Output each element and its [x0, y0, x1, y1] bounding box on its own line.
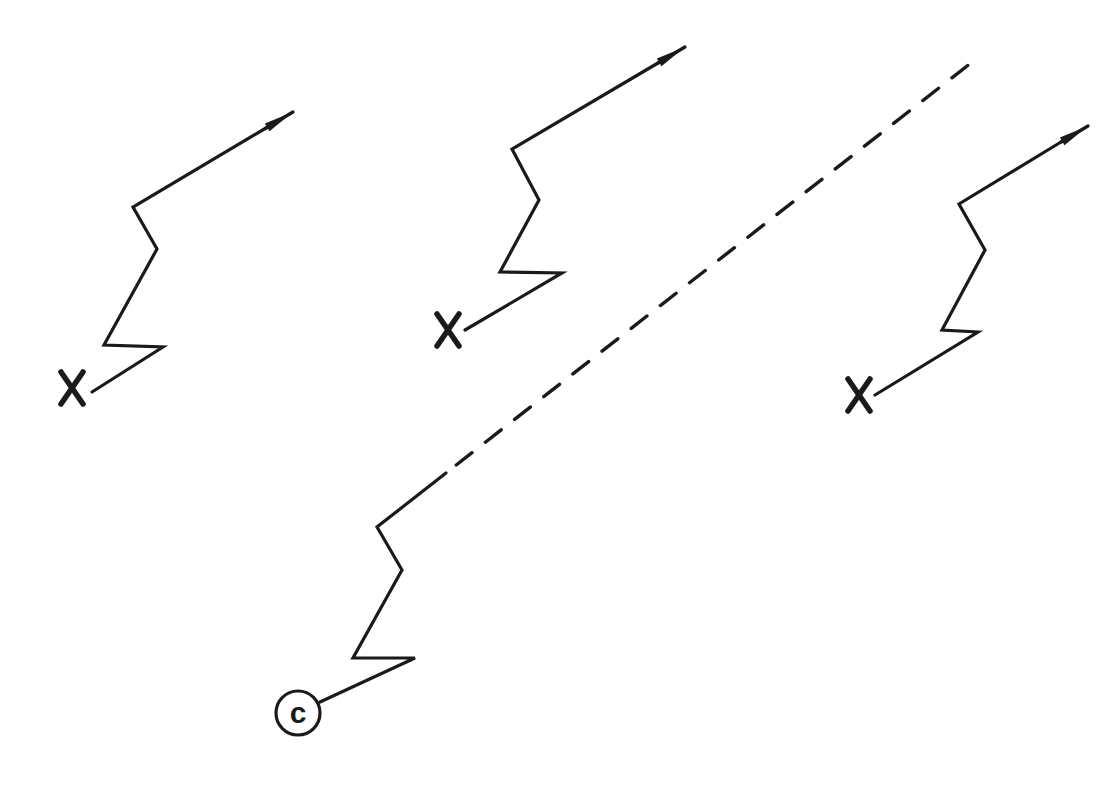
x-marker-icon	[61, 372, 83, 404]
c-marker-label: c	[290, 696, 307, 729]
track-3	[848, 126, 1088, 411]
arrowhead-icon	[657, 47, 685, 66]
zigzag-track-line	[875, 142, 1061, 395]
x-marker-icon	[848, 379, 870, 411]
arrowhead-icon	[265, 112, 293, 131]
circled-c-marker-icon: c	[276, 691, 320, 735]
diagram-canvas: c	[0, 0, 1119, 785]
arrowhead-icon	[1060, 126, 1088, 145]
track-c: c	[276, 59, 976, 735]
dashed-extrapolation-line	[446, 59, 976, 473]
zigzag-track-line	[320, 473, 446, 702]
zigzag-track-line	[92, 128, 266, 392]
track-2	[437, 47, 685, 346]
x-marker-icon	[437, 314, 459, 346]
track-1	[61, 112, 293, 404]
tracks-layer: c	[61, 47, 1088, 735]
zigzag-track-line	[465, 63, 658, 330]
